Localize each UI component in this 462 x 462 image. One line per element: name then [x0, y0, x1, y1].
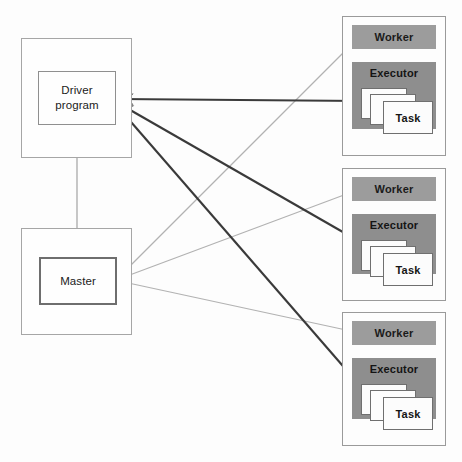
arrow-driver-to-executor-3: [118, 107, 362, 388]
executor-label-3: Executor: [352, 363, 436, 375]
worker-label-3: Worker: [375, 327, 414, 339]
worker-label-1: Worker: [375, 31, 414, 43]
executor-box-1[interactable]: Executor Task: [352, 62, 436, 129]
driver-program-label-line1: Driver: [61, 83, 92, 98]
executor-label-2: Executor: [352, 219, 436, 231]
task-label-2: Task: [395, 264, 420, 276]
worker-bar-2[interactable]: Worker: [352, 177, 436, 201]
worker-label-2: Worker: [375, 183, 414, 195]
worker-bar-1[interactable]: Worker: [352, 25, 436, 49]
diagram-canvas: Driver program Master Worker Executor Ta…: [0, 0, 462, 462]
arrow-driver-to-executor-2: [118, 103, 362, 243]
task-stack-3: Task: [361, 384, 433, 430]
worker-node-3[interactable]: Worker Executor Task: [342, 312, 446, 446]
worker-node-1[interactable]: Worker Executor Task: [342, 16, 446, 156]
task-label-1: Task: [395, 112, 420, 124]
executor-box-3[interactable]: Executor Task: [352, 358, 436, 419]
task-card-front-2[interactable]: Task: [383, 253, 433, 286]
worker-bar-3[interactable]: Worker: [352, 321, 436, 345]
arrow-master-to-worker-3: [119, 281, 360, 333]
task-stack-1: Task: [361, 88, 433, 134]
worker-node-2[interactable]: Worker Executor Task: [342, 168, 446, 301]
driver-program-label-line2: program: [55, 98, 99, 113]
master-box[interactable]: Master: [39, 257, 117, 305]
executor-label-1: Executor: [352, 67, 436, 79]
task-label-3: Task: [395, 408, 420, 420]
driver-program-box[interactable]: Driver program: [38, 71, 116, 125]
executor-box-2[interactable]: Executor Task: [352, 214, 436, 274]
task-card-front-3[interactable]: Task: [383, 397, 433, 430]
arrow-master-to-worker-1: [119, 36, 360, 277]
task-stack-2: Task: [361, 240, 433, 286]
master-label: Master: [60, 274, 96, 289]
task-card-front-1[interactable]: Task: [383, 101, 433, 134]
arrow-driver-to-executor-1: [118, 99, 362, 101]
arrow-master-to-worker-2: [119, 189, 360, 279]
